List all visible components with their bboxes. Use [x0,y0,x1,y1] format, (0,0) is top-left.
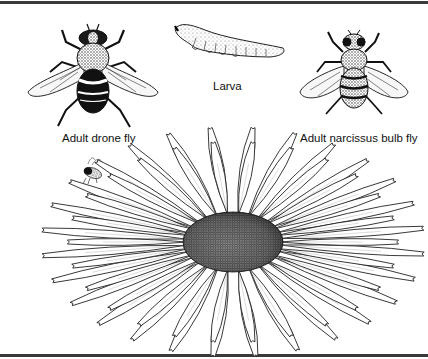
daisy-petal [211,142,228,215]
narcissus-fly-label: Adult narcissus bulb fly [300,132,418,144]
drone-fly-illustration [28,24,158,127]
larva-label: Larva [213,80,242,92]
larva-illustration [175,25,284,57]
illustration-canvas: Adult drone fly Larva Adult narcissus bu… [0,0,428,359]
narcissus-fly-illustration [300,30,408,114]
daisy-disc-shade [183,212,283,272]
drone-fly-label: Adult drone fly [62,132,136,144]
daisy-petal [238,270,255,343]
